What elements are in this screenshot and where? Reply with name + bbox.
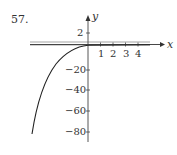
problem-number: 57.	[11, 14, 29, 25]
y-tick-neg40: −40	[65, 85, 86, 95]
x-tick-4: 4	[135, 49, 141, 59]
y-tick-neg20: −20	[65, 65, 86, 75]
y-tick-neg60: −60	[65, 106, 86, 116]
y-axis-label: y	[92, 11, 98, 22]
function-curve	[32, 45, 150, 134]
x-tick-3: 3	[123, 49, 129, 59]
y-axis-arrow-icon	[86, 15, 91, 21]
x-axis-label: x	[167, 39, 173, 50]
y-tick-neg80: −80	[65, 127, 86, 137]
x-axis-arrow-icon	[160, 42, 165, 47]
x-tick-2: 2	[110, 49, 116, 59]
x-tick-1: 1	[98, 49, 104, 59]
y-tick-2: 2	[77, 28, 83, 38]
